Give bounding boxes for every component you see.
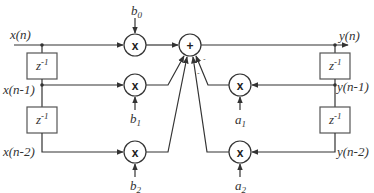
multiply-icon: x xyxy=(132,146,139,160)
label-y-n: y(n) xyxy=(337,28,360,43)
label-x-n-2: x(n-2) xyxy=(2,144,35,159)
multiply-icon: x xyxy=(237,79,244,93)
minus-sign-a2: - xyxy=(197,68,200,77)
label-y-n-1: y(n-1) xyxy=(335,79,369,94)
coef-a1: a1 xyxy=(235,112,246,129)
coef-b2: b2 xyxy=(130,178,142,193)
label-x-n: x(n) xyxy=(9,27,31,42)
coef-a2: a2 xyxy=(235,178,247,193)
coef-b0: b0 xyxy=(131,3,143,20)
wire-a1-to-sum xyxy=(196,56,229,85)
coef-b1: b1 xyxy=(130,111,141,128)
wire-xn2-to-b2 xyxy=(42,133,123,152)
wire-b2-to-sum xyxy=(146,57,187,152)
minus-sign-a1: - xyxy=(203,54,206,63)
label-x-n-1: x(n-1) xyxy=(2,82,35,97)
biquad-diagram: z-1 z-1 x(n) x(n-1) x(n-2) x b0 x b1 x b… xyxy=(0,0,374,193)
multiply-icon: x xyxy=(132,79,139,93)
plus-icon: + xyxy=(186,39,193,53)
wire-yn2-to-a2 xyxy=(252,133,335,152)
wire-b1-to-sum xyxy=(146,56,184,85)
label-y-n-2: y(n-2) xyxy=(335,144,369,159)
multiply-icon: x xyxy=(132,39,139,53)
multiply-icon: x xyxy=(237,146,244,160)
